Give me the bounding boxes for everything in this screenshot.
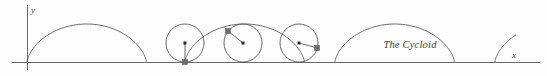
circle-phase-2 [280,24,320,62]
axes-group: y x [12,5,540,70]
figure-caption: The Cycloid [383,39,437,50]
cycloid-arch [27,24,146,62]
cycloid-arch [185,24,304,62]
circle-phase-0 [166,24,204,65]
x-axis-label: x [511,50,516,60]
tracing-point-marker [183,60,188,65]
cycloid-curve-group [27,24,516,62]
cycloid-diagram: y x The Cycloid [0,0,547,76]
generating-circles-group [166,24,320,65]
y-axis-label: y [30,5,35,15]
tracing-point-marker [226,29,231,34]
tracing-point-marker [315,46,320,51]
circle-phase-1 [224,24,262,62]
cycloid-figure: y x The Cycloid [0,0,547,76]
circle-center-marker [184,42,187,45]
circle-center-marker [298,42,301,45]
circle-center-marker [242,42,245,45]
